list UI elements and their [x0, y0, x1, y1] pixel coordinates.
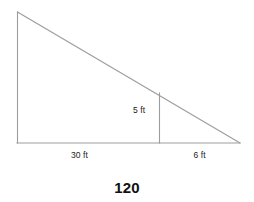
- base-right-dimension-label: 6 ft: [159, 150, 240, 160]
- answer-value: 120: [0, 179, 254, 196]
- figure-container: 5 ft 30 ft 6 ft 120: [0, 0, 254, 202]
- hypotenuse-line: [18, 12, 241, 143]
- triangle-diagram: [0, 0, 254, 202]
- base-left-dimension-label: 30 ft: [0, 150, 159, 160]
- height-dimension-label: 5 ft: [133, 105, 145, 115]
